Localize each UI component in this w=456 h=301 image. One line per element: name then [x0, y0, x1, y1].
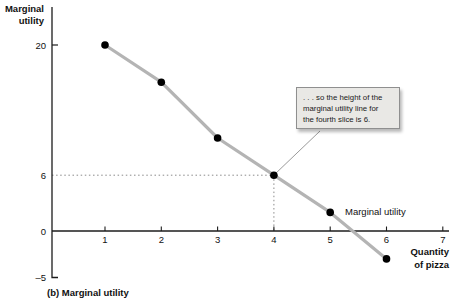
- x-tick-label: 6: [384, 234, 389, 245]
- y-axis-line: [52, 7, 58, 278]
- x-tick-label: 3: [215, 234, 220, 245]
- annotation-line2: marginal utility line for: [303, 103, 394, 114]
- y-axis-title-line2: utility: [0, 15, 44, 27]
- data-point: [326, 209, 334, 217]
- x-tick-label: 4: [271, 234, 276, 245]
- annotation-callout-box: . . . so the height of the marginal util…: [296, 87, 400, 129]
- data-point: [270, 171, 278, 179]
- y-tick-label: –5: [35, 272, 46, 283]
- x-tick-label: 2: [159, 234, 164, 245]
- callout-pointer-line: [276, 131, 320, 173]
- y-axis-title-line1: Marginal: [0, 3, 44, 15]
- series-label: Marginal utility: [345, 206, 406, 217]
- data-point: [101, 41, 109, 49]
- y-tick-label: 0: [41, 226, 46, 237]
- x-tick-label: 5: [328, 234, 333, 245]
- y-axis-title: Marginal utility: [0, 3, 44, 27]
- annotation-line1: . . . so the height of the: [303, 92, 394, 103]
- x-axis-title-line1: Quantity: [383, 245, 449, 258]
- marginal-utility-line: [105, 45, 387, 259]
- x-axis-title: Quantity of pizza: [383, 245, 449, 271]
- data-point: [214, 134, 222, 142]
- x-tick-label: 7: [440, 234, 445, 245]
- y-tick-label: 20: [35, 40, 46, 51]
- y-tick-label: 6: [41, 170, 46, 181]
- marginal-utility-figure: 12345672060–5 Marginal utility Quantity …: [0, 0, 456, 301]
- x-axis-title-line2: of pizza: [383, 258, 449, 271]
- annotation-line3: the fourth slice is 6.: [303, 114, 394, 125]
- data-point: [158, 78, 166, 86]
- x-tick-label: 1: [102, 234, 107, 245]
- figure-caption: (b) Marginal utility: [47, 287, 129, 298]
